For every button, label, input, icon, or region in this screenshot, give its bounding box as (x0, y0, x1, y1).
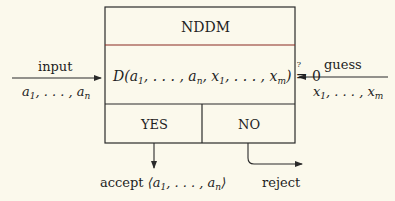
no-label: NO (238, 118, 260, 131)
input-values: a1, . . . , an (22, 85, 90, 98)
reject-arrow (248, 143, 302, 164)
input-label: input (38, 60, 72, 73)
yes-label: YES (141, 118, 168, 131)
nddm-title: NDDM (181, 20, 230, 34)
accept-label: accept ⟨a1, . . . , an⟩ (100, 176, 226, 189)
guess-label: guess (324, 58, 362, 71)
guess-values: x1, . . . , xm (313, 85, 383, 98)
equation: D(a1, . . . , an, x1, . . . , xm) ?= 0 (113, 69, 321, 83)
reject-label: reject (262, 176, 300, 189)
